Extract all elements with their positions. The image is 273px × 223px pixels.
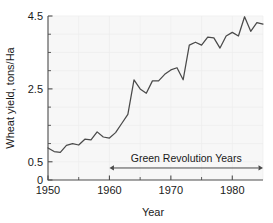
y-tick-label: 2.5	[28, 83, 43, 95]
x-axis-title: Year	[142, 206, 165, 218]
green-revolution-annotation: Green Revolution Years	[109, 152, 263, 171]
y-tick-label: 0.5	[28, 156, 43, 168]
x-tick-label: 1980	[220, 184, 244, 196]
x-tick-label: 1960	[97, 184, 121, 196]
chart-svg: 00.52.54.5 1950196019701980 Green Revolu…	[0, 0, 273, 223]
x-tick-label: 1950	[36, 184, 60, 196]
annotation-label: Green Revolution Years	[131, 152, 242, 164]
wheat-yield-chart: 00.52.54.5 1950196019701980 Green Revolu…	[0, 0, 273, 223]
y-tick-label: 4.5	[28, 10, 43, 22]
x-tick-label: 1970	[159, 184, 183, 196]
y-axis-title: Wheat yield, tons/Ha	[4, 46, 16, 148]
